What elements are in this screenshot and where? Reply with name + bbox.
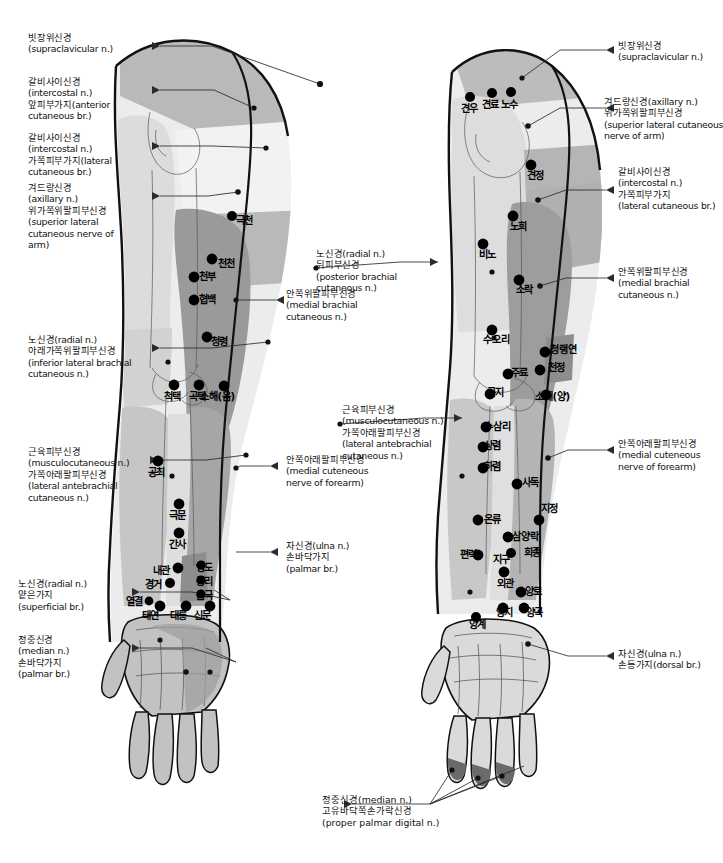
- label-supraclavicular-right: 빗장위신경 (supraclavicular n.): [618, 40, 703, 63]
- acupoint-label: 지구: [493, 554, 510, 565]
- acupoint-label: 천부: [199, 271, 216, 282]
- left-arm-figure: [102, 34, 312, 784]
- label-ulna-dorsal-right: 자신경(ulna n.) 손등가지(dorsal br.): [618, 648, 701, 671]
- acupoint-label: 곡지: [487, 387, 504, 398]
- acupoint-label: 천천: [218, 258, 235, 269]
- right-arm-figure: [422, 40, 606, 788]
- label-intercostal-lateral-left: 갈비사이신경 (intercostal n.) 가쪽피부가지(lateral c…: [28, 132, 112, 178]
- acupoint-label: 견정: [527, 170, 544, 181]
- label-axillary-superior-lateral-left: 겨드랑신경 (axillary n.) 위가쪽위팔피부신경 (superior …: [28, 182, 113, 250]
- acupoint-label: 하렴: [484, 461, 501, 472]
- acupoint-label: 견우: [461, 103, 478, 114]
- anatomy-diagram: 빗장위신경 (supraclavicular n.) 갈비사이신경 (inter…: [0, 0, 723, 863]
- label-medial-brachial-cutaneous-right: 안쪽위팔피부신경 (medial brachial cutaneous n.): [618, 266, 689, 300]
- acupoint-label: 천정: [548, 362, 565, 373]
- label-radial-posterior-brachial-center: 노신경(radial n.) 뒤피부신경 (posterior brachial…: [316, 248, 397, 294]
- acupoint-label: 신문: [194, 610, 211, 621]
- label-musculocutaneous-lateral-antebrachial-left: 근육피부신경 (musculocutaneous n.) 가쪽아래팔피부신경 (…: [28, 446, 129, 503]
- acupoint-label: 극문: [169, 510, 186, 521]
- acupoint-label: 양지: [496, 607, 513, 618]
- label-medial-antebrachial-cutaneous-center: 안쪽아래팔피부신경 (medial cuteneous nerve of for…: [286, 454, 368, 488]
- acupoint-label: 외관: [497, 578, 514, 589]
- acupoint-label: 지정: [541, 503, 558, 514]
- acupoint-label: 양계: [469, 619, 486, 630]
- acupoint-label: 내관: [153, 565, 170, 576]
- acupoint-label: 소락: [516, 284, 533, 295]
- acupoint-label: 대릉: [170, 610, 187, 621]
- acupoint-label: 노수: [501, 99, 518, 110]
- acupoint-label: 소해(음): [200, 391, 235, 402]
- label-median-palmar-left: 정중신경 (median n.) 손바닥가지 (palmar br.): [18, 634, 70, 680]
- acupoint-label: 사독: [522, 477, 539, 488]
- acupoint-label: 태연: [142, 610, 159, 621]
- left-hand: [102, 615, 230, 785]
- acupoint-label: 열결: [126, 596, 143, 607]
- label-intercostal-lateral-right: 갈비사이신경 (intercostal n.) 가쪽피부가지 (lateral …: [618, 166, 715, 212]
- acupoint-label: 공최: [148, 467, 165, 478]
- acupoint-label: 양곡: [526, 607, 543, 618]
- acupoint-label: 양로: [525, 586, 542, 597]
- acupoint-label: 협백: [199, 294, 216, 305]
- caption-median-proper-palmar-digital: 정중신경(median n.) 고유바닥쪽손가락신경 (proper palma…: [322, 794, 439, 828]
- acupoint-label: 청령: [211, 336, 228, 347]
- acupoint-label: 편력: [460, 549, 477, 560]
- acupoint-label: 주료: [511, 367, 528, 378]
- label-medial-antebrachial-cutaneous-right: 안쪽아래팔피부신경 (medial cuteneous nerve of for…: [618, 438, 700, 472]
- label-radial-superficial-left: 노신경(radial n.) 얕은가지 (superficial br.): [18, 578, 87, 612]
- acupoint-label: 노회: [510, 221, 527, 232]
- label-medial-brachial-cutaneous-center: 안쪽위팔피부신경 (medial brachial cutaneous n.): [286, 288, 357, 322]
- acupoint-label: 극천: [236, 215, 253, 226]
- label-musculocutaneous-lateral-antebrachial-center: 근육피부신경 (musculocutaneous n.) 가쪽아래팔피부신경 (…: [342, 404, 443, 461]
- acupoint-label: 간사: [169, 539, 186, 550]
- acupoint-label: 통리: [196, 576, 213, 587]
- acupoint-label: 소해(양): [535, 391, 570, 402]
- acupoint-label: 수오리: [483, 334, 509, 345]
- acupoint-label: 삼양락: [512, 531, 538, 542]
- label-supraclavicular-left: 빗장위신경 (supraclavicular n.): [28, 32, 113, 55]
- acupoint-label: 상렴: [484, 440, 501, 451]
- label-ulna-palmar-center: 자신경(ulna n.) 손바닥가지 (palmar br.): [286, 540, 349, 574]
- acupoint-label: 청랭연: [550, 344, 576, 355]
- acupoint-label: 견료: [482, 99, 499, 110]
- acupoint-label: 음극: [196, 590, 213, 601]
- acupoint-label: 수삼리: [484, 421, 510, 432]
- acupoint-label: 회종: [524, 547, 541, 558]
- label-radial-inferior-lateral-brachial-left: 노신경(radial n.) 아래가쪽위팔피부신경 (inferior late…: [28, 334, 131, 380]
- acupoint-label: 영도: [196, 562, 213, 573]
- label-axillary-superior-lateral-right: 겨드랑신경(axillary n.) 위가쪽위팔피부신경 (superior l…: [604, 96, 723, 142]
- acupoint-label: 비노: [479, 249, 496, 260]
- acupoint-label: 온류: [484, 514, 501, 525]
- label-intercostal-anterior-left: 갈비사이신경 (intercostal n.) 앞피부가지(anterior c…: [28, 76, 110, 122]
- acupoint-label: 척택: [164, 391, 181, 402]
- acupoint-label: 경거: [145, 579, 162, 590]
